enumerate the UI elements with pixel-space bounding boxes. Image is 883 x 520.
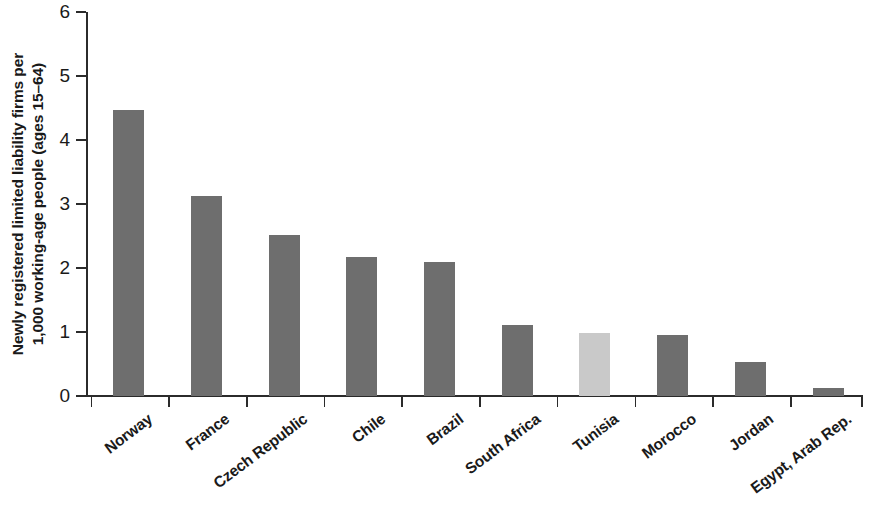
x-axis-label-tunisia: Tunisia [570, 410, 622, 456]
y-tick-label-1: 1 [40, 321, 70, 343]
bar-chart: Newly registered limited liability firms… [0, 0, 883, 520]
bar-south-africa [502, 325, 533, 396]
x-axis-label-south-africa: South Africa [462, 410, 544, 478]
bars-container [86, 12, 863, 396]
x-axis-label-brazil: Brazil [423, 410, 467, 449]
bar-czech-republic [269, 235, 300, 396]
y-tick-label-4: 4 [40, 129, 70, 151]
x-tick-7 [635, 396, 637, 407]
y-tick-label-5: 5 [40, 65, 70, 87]
bar-tunisia [579, 333, 610, 396]
y-tick-5 [76, 75, 86, 77]
y-tick-4 [76, 139, 86, 141]
bar-brazil [424, 262, 455, 396]
bar-chile [346, 257, 377, 396]
y-tick-label-0: 0 [40, 385, 70, 407]
x-tick-6 [557, 396, 559, 407]
y-tick-2 [76, 267, 86, 269]
y-tick-1 [76, 331, 86, 333]
x-tick-3 [324, 396, 326, 407]
y-tick-0 [76, 395, 86, 397]
bar-morocco [657, 335, 688, 396]
x-tick-4 [401, 396, 403, 407]
x-axis-label-morocco: Morocco [638, 410, 699, 462]
y-tick-label-2: 2 [40, 257, 70, 279]
bar-france [191, 196, 222, 396]
y-tick-label-6: 6 [40, 1, 70, 23]
x-tick-end [861, 396, 863, 407]
x-tick-9 [790, 396, 792, 407]
x-axis-label-jordan: Jordan [726, 410, 777, 455]
x-axis-label-norway: Norway [101, 410, 156, 457]
x-axis-label-chile: Chile [348, 410, 388, 447]
y-tick-3 [76, 203, 86, 205]
bar-norway [113, 110, 144, 396]
x-tick-2 [246, 396, 248, 407]
bar-jordan [735, 362, 766, 396]
y-tick-label-3: 3 [40, 193, 70, 215]
x-tick-1 [168, 396, 170, 407]
bar-egypt-arab-rep [813, 388, 844, 396]
x-tick-0 [91, 396, 93, 407]
x-tick-8 [712, 396, 714, 407]
x-tick-5 [479, 396, 481, 407]
y-tick-6 [76, 11, 86, 13]
x-axis-label-france: France [183, 410, 233, 454]
